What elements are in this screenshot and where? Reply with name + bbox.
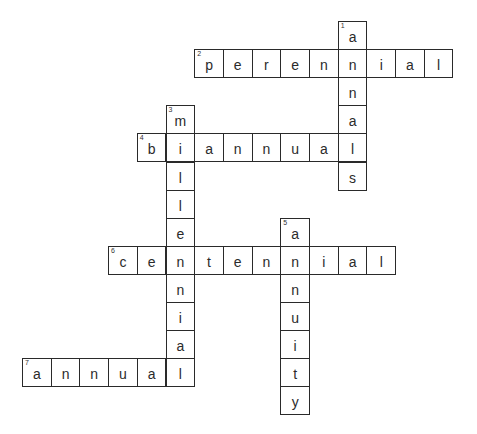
crossword-cell[interactable]: e <box>223 246 253 275</box>
crossword-cell[interactable]: 1a <box>338 21 368 50</box>
cell-letter: u <box>109 366 137 382</box>
cell-letter: l <box>339 141 367 157</box>
cell-letter: a <box>339 254 367 270</box>
cell-letter: a <box>138 366 166 382</box>
crossword-cell[interactable]: n <box>79 358 109 387</box>
cell-letter: n <box>281 282 309 298</box>
cell-letter: n <box>339 57 367 73</box>
crossword-cell[interactable]: s <box>338 162 368 191</box>
crossword-cell[interactable]: n <box>280 274 310 303</box>
cell-letter: i <box>167 141 195 157</box>
crossword-cell[interactable]: n <box>252 246 282 275</box>
crossword-cell[interactable]: u <box>280 133 310 162</box>
cell-letter: s <box>339 170 367 186</box>
cell-letter: l <box>425 57 453 73</box>
crossword-cell[interactable]: 2p <box>194 49 224 78</box>
crossword-cell[interactable]: y <box>280 386 310 415</box>
cell-letter: l <box>167 366 195 382</box>
crossword-cell[interactable]: l <box>166 358 196 387</box>
cell-letter: e <box>224 254 252 270</box>
crossword-cell[interactable]: a <box>309 133 339 162</box>
cell-letter: i <box>281 338 309 354</box>
cell-letter: a <box>23 366 51 382</box>
cell-letter: e <box>281 57 309 73</box>
cell-letter: a <box>396 57 424 73</box>
crossword-cell[interactable]: e <box>223 49 253 78</box>
cell-letter: t <box>195 254 223 270</box>
cell-letter: p <box>195 57 223 73</box>
crossword-cell[interactable]: 6c <box>108 246 138 275</box>
cell-letter: l <box>167 170 195 186</box>
cell-letter: l <box>367 254 395 270</box>
cell-letter: a <box>310 141 338 157</box>
cell-letter: a <box>281 226 309 242</box>
cell-letter: e <box>224 57 252 73</box>
crossword-cell[interactable]: e <box>166 218 196 247</box>
cell-letter: b <box>138 141 166 157</box>
cell-letter: m <box>167 113 195 129</box>
crossword-cell[interactable]: u <box>108 358 138 387</box>
crossword-cell[interactable]: a <box>166 330 196 359</box>
crossword-cell[interactable]: e <box>280 49 310 78</box>
cell-letter: n <box>52 366 80 382</box>
crossword-cell[interactable]: 7a <box>22 358 52 387</box>
crossword-cell[interactable]: n <box>252 133 282 162</box>
cell-letter: a <box>339 29 367 45</box>
crossword-cell[interactable]: i <box>366 49 396 78</box>
cell-letter: a <box>339 113 367 129</box>
crossword-cell[interactable]: a <box>338 246 368 275</box>
cell-letter: u <box>281 310 309 326</box>
crossword-cell[interactable]: a <box>338 105 368 134</box>
cell-letter: i <box>367 57 395 73</box>
crossword-cell[interactable]: i <box>166 302 196 331</box>
crossword-cell[interactable]: n <box>166 274 196 303</box>
cell-letter: e <box>138 254 166 270</box>
crossword-cell[interactable]: n <box>338 49 368 78</box>
cell-letter: n <box>253 254 281 270</box>
crossword-cell[interactable]: n <box>51 358 81 387</box>
crossword-cell[interactable]: r <box>252 49 282 78</box>
cell-letter: n <box>80 366 108 382</box>
cell-letter: n <box>253 141 281 157</box>
cell-letter: c <box>109 254 137 270</box>
crossword-cell[interactable]: l <box>366 246 396 275</box>
cell-letter: u <box>281 141 309 157</box>
crossword-cell[interactable]: n <box>280 246 310 275</box>
crossword-cell[interactable]: n <box>309 49 339 78</box>
crossword-cell[interactable]: i <box>166 133 196 162</box>
crossword-cell[interactable]: a <box>194 133 224 162</box>
crossword-cell[interactable]: e <box>137 246 167 275</box>
crossword-cell[interactable]: 5a <box>280 218 310 247</box>
cell-letter: a <box>167 338 195 354</box>
cell-letter: e <box>167 226 195 242</box>
cell-letter: i <box>167 310 195 326</box>
cell-letter: n <box>167 282 195 298</box>
cell-letter: n <box>281 254 309 270</box>
crossword-cell[interactable]: n <box>223 133 253 162</box>
cell-letter: n <box>167 254 195 270</box>
cell-letter: a <box>195 141 223 157</box>
cell-letter: i <box>310 254 338 270</box>
crossword-cell[interactable]: t <box>280 358 310 387</box>
crossword-cell[interactable]: i <box>309 246 339 275</box>
crossword-cell[interactable]: 4b <box>137 133 167 162</box>
crossword-cell[interactable]: n <box>166 246 196 275</box>
crossword-cell[interactable]: a <box>395 49 425 78</box>
cell-letter: l <box>167 198 195 214</box>
crossword-grid: 1annals2perenial3millennial4bannua5annui… <box>0 0 477 434</box>
crossword-cell[interactable]: i <box>280 330 310 359</box>
crossword-cell[interactable]: l <box>338 133 368 162</box>
cell-letter: y <box>281 394 309 410</box>
crossword-cell[interactable]: l <box>166 162 196 191</box>
cell-letter: n <box>310 57 338 73</box>
crossword-cell[interactable]: l <box>424 49 454 78</box>
crossword-cell[interactable]: l <box>166 190 196 219</box>
crossword-cell[interactable]: t <box>194 246 224 275</box>
crossword-cell[interactable]: a <box>137 358 167 387</box>
cell-letter: r <box>253 57 281 73</box>
cell-letter: n <box>339 85 367 101</box>
cell-letter: t <box>281 366 309 382</box>
crossword-cell[interactable]: n <box>338 77 368 106</box>
crossword-cell[interactable]: u <box>280 302 310 331</box>
crossword-cell[interactable]: 3m <box>166 105 196 134</box>
